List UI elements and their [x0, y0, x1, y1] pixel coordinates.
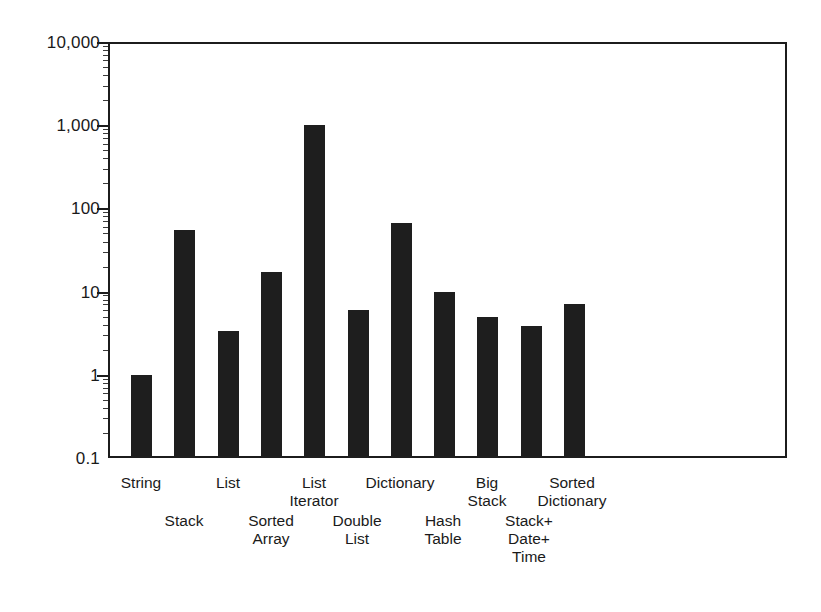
x-label-string: String [121, 474, 162, 492]
y-minor-tick [103, 75, 108, 76]
x-label-sorted-array: Sorted Array [248, 512, 294, 548]
x-label-line: Big [468, 474, 507, 492]
x-label-big-stack: Big Stack [468, 474, 507, 510]
x-label-line: Double [332, 512, 381, 530]
y-minor-tick [103, 144, 108, 145]
x-label-line: Dictionary [538, 492, 607, 510]
y-minor-tick [103, 60, 108, 61]
bar-list-iterator [304, 125, 325, 458]
y-minor-tick [103, 129, 108, 130]
y-minor-tick [103, 138, 108, 139]
x-label-line: Date+ [505, 530, 553, 548]
x-label-list: List [216, 474, 240, 492]
y-minor-tick [103, 158, 108, 159]
x-label-line: List [216, 474, 240, 492]
bar-sorted-array [261, 272, 282, 458]
y-minor-tick [103, 418, 108, 419]
y-minor-tick [103, 233, 108, 234]
y-minor-tick [103, 304, 108, 305]
y-minor-tick [103, 433, 108, 434]
y-tick-label-10: 10 [16, 284, 108, 301]
x-label-line: Sorted [538, 474, 607, 492]
y-minor-tick [103, 335, 108, 336]
y-minor-tick [103, 67, 108, 68]
y-minor-tick [103, 46, 108, 47]
y-minor-tick [103, 325, 108, 326]
x-label-line: String [121, 474, 162, 492]
y-minor-tick [103, 55, 108, 56]
bar-stack-date-time [521, 326, 542, 458]
y-minor-tick [103, 267, 108, 268]
bar-string [131, 375, 152, 458]
y-minor-tick [103, 388, 108, 389]
x-label-hash-table: Hash Table [424, 512, 461, 548]
x-label-line: Iterator [289, 492, 338, 510]
y-tick-label-0.1: 0.1 [16, 450, 108, 467]
x-label-sorted-dictionary: Sorted Dictionary [538, 474, 607, 510]
y-minor-tick [103, 227, 108, 228]
y-minor-tick [103, 100, 108, 101]
x-label-line: Table [424, 530, 461, 548]
x-label-line: Dictionary [366, 474, 435, 492]
bar-chart-figure: 10,000 1,000 100 10 1 0.1 String List Li… [0, 0, 821, 612]
y-minor-tick [103, 50, 108, 51]
x-label-dictionary: Dictionary [366, 474, 435, 492]
y-minor-tick [103, 400, 108, 401]
x-label-list-iterator: List Iterator [289, 474, 338, 510]
y-tick-label-1000: 1,000 [16, 117, 108, 134]
y-tick-label-100: 100 [16, 200, 108, 217]
x-label-line: Hash [424, 512, 461, 530]
bar-hash-table [434, 292, 455, 458]
x-label-stack-date-time: Stack+ Date+ Time [505, 512, 553, 566]
y-minor-tick [103, 310, 108, 311]
x-label-stack: Stack [165, 512, 204, 530]
y-minor-tick [103, 393, 108, 394]
x-label-line: Stack [468, 492, 507, 510]
y-minor-tick [103, 317, 108, 318]
y-minor-tick [103, 383, 108, 384]
y-minor-tick [103, 379, 108, 380]
y-minor-tick [103, 150, 108, 151]
y-minor-tick [103, 221, 108, 222]
x-label-line: Stack+ [505, 512, 553, 530]
y-minor-tick [103, 295, 108, 296]
y-minor-tick [103, 133, 108, 134]
y-minor-tick [103, 86, 108, 87]
y-minor-tick [103, 216, 108, 217]
bar-dictionary [391, 223, 412, 458]
x-label-line: Array [248, 530, 294, 548]
x-label-line: Sorted [248, 512, 294, 530]
y-minor-tick [103, 252, 108, 253]
y-minor-tick [103, 212, 108, 213]
y-tick-label-10000: 10,000 [16, 34, 108, 51]
x-label-double-list: Double List [332, 512, 381, 548]
y-minor-tick [103, 242, 108, 243]
x-label-line: Stack [165, 512, 204, 530]
x-label-line: List [332, 530, 381, 548]
y-minor-tick [103, 408, 108, 409]
y-tick-label-1: 1 [16, 367, 108, 384]
y-minor-tick [103, 169, 108, 170]
y-minor-tick [103, 300, 108, 301]
x-label-line: List [289, 474, 338, 492]
bar-sorted-dictionary [564, 304, 585, 458]
bar-double-list [348, 310, 369, 458]
bar-stack [174, 230, 195, 458]
x-label-line: Time [505, 548, 553, 566]
bar-list [218, 331, 239, 458]
y-minor-tick [103, 350, 108, 351]
y-axis: 10,000 1,000 100 10 1 0.1 [0, 0, 108, 612]
y-minor-tick [103, 183, 108, 184]
bar-big-stack [477, 317, 498, 458]
